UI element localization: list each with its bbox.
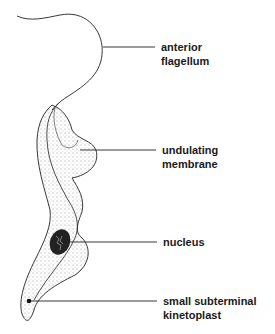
label-line: kinetoplast (163, 308, 257, 322)
cell-body (21, 105, 97, 320)
diagram-canvas: anterior flagellum undulating membrane n… (0, 0, 275, 334)
kinetoplast-dot (27, 299, 32, 304)
label-line: flagellum (161, 54, 209, 68)
label-line: small subterminal (163, 294, 257, 308)
label-line: anterior (161, 40, 209, 54)
label-kinetoplast: small subterminal kinetoplast (163, 294, 257, 322)
label-nucleus: nucleus (163, 235, 205, 249)
flagellum-line (17, 14, 102, 110)
trypanosome-illustration (0, 0, 275, 334)
label-line: membrane (162, 157, 218, 171)
label-undulating-membrane: undulating membrane (162, 143, 218, 171)
label-line: undulating (162, 143, 218, 157)
label-line: nucleus (163, 235, 205, 249)
label-anterior-flagellum: anterior flagellum (161, 40, 209, 68)
